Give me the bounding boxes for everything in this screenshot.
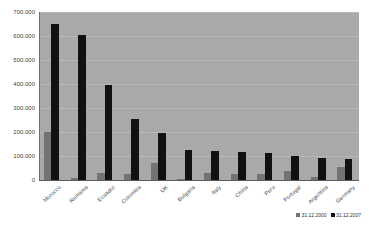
x-axis-line	[39, 180, 359, 181]
y-axis-tick-label: 700.000	[0, 9, 35, 15]
legend-swatch	[296, 213, 300, 217]
bar-group	[337, 12, 352, 180]
legend-swatch	[331, 213, 335, 217]
x-axis-tick-label: Portugal	[254, 184, 303, 229]
bar	[204, 173, 212, 180]
bar	[78, 35, 86, 180]
y-axis-line	[39, 12, 40, 181]
bar-group	[71, 12, 86, 180]
bar	[337, 167, 345, 180]
legend-label: 31.12.2000	[302, 212, 327, 218]
x-axis-tick-label: Argentina	[280, 184, 329, 229]
bar	[265, 153, 273, 180]
x-axis-tick-label: Germany	[307, 184, 356, 229]
bar-group	[97, 12, 112, 180]
plot-area	[39, 12, 359, 180]
chart-legend: 31.12.200031.12.2007	[296, 212, 361, 218]
bar-group	[311, 12, 326, 180]
bar	[51, 24, 59, 180]
bar-series-container	[39, 12, 359, 180]
bar	[291, 156, 299, 180]
legend-item: 31.12.2000	[296, 212, 327, 218]
bar	[211, 151, 219, 180]
bar	[97, 173, 105, 180]
bar-group	[204, 12, 219, 180]
bar	[158, 133, 166, 180]
x-axis-tick-label: Ecuador	[67, 184, 116, 229]
bar-group	[177, 12, 192, 180]
y-axis-tick-label: 400.000	[0, 81, 35, 87]
x-axis-tick-label: China	[200, 184, 249, 229]
y-axis-tick-label: 100.000	[0, 153, 35, 159]
x-axis-tick-label: UK	[120, 184, 169, 229]
bar-group	[44, 12, 59, 180]
y-axis-tick-label: 200.000	[0, 129, 35, 135]
chart-title	[0, 0, 369, 4]
bar	[131, 119, 139, 180]
x-axis-tick-label: Peru	[227, 184, 276, 229]
y-axis-tick-label: 600.000	[0, 33, 35, 39]
x-axis-tick-label: Morocco	[14, 184, 63, 229]
bar-group	[284, 12, 299, 180]
bar-group	[151, 12, 166, 180]
bar	[44, 132, 52, 180]
bar-group	[231, 12, 246, 180]
bar-group	[257, 12, 272, 180]
legend-item: 31.12.2007	[331, 212, 362, 218]
bar	[284, 171, 292, 180]
y-axis-tick-label: 0	[0, 177, 35, 183]
x-axis-tick-label: Bulgaria	[147, 184, 196, 229]
bar-group	[124, 12, 139, 180]
bar	[105, 85, 113, 180]
x-axis-tick-label: Colombia	[94, 184, 143, 229]
bar	[151, 163, 159, 180]
x-axis-tick-label: Italy	[174, 184, 223, 229]
bar-chart: 0100.000200.000300.000400.000500.000600.…	[0, 0, 369, 232]
y-axis-tick-label: 300.000	[0, 105, 35, 111]
bar	[185, 150, 193, 180]
x-axis-tick-label: Romania	[40, 184, 89, 229]
bar	[345, 159, 353, 180]
bar	[318, 158, 326, 180]
legend-label: 31.12.2007	[336, 212, 361, 218]
y-axis-tick-label: 500.000	[0, 57, 35, 63]
bar	[238, 152, 246, 180]
